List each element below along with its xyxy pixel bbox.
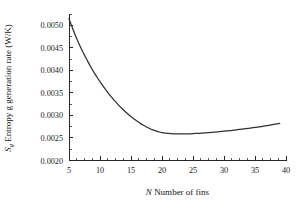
y-tick-label: 0.0050 xyxy=(40,21,63,30)
svg-text:Sg Entropy g generation rate (: Sg Entropy g generation rate (W/K) xyxy=(3,24,14,151)
chart-background xyxy=(0,0,301,206)
x-tick-label: 15 xyxy=(127,166,135,175)
y-tick-label: 0.0035 xyxy=(40,89,63,98)
y-tick-label: 0.0045 xyxy=(40,44,63,53)
x-tick-label: 20 xyxy=(158,166,166,175)
svg-text:N Number of fins: N Number of fins xyxy=(145,187,210,197)
y-tick-label: 0.0030 xyxy=(40,111,63,120)
x-tick-label: 10 xyxy=(96,166,104,175)
chart-canvas: 0.00200.00250.00300.00350.00400.00450.00… xyxy=(0,0,301,206)
x-tick-label: 5 xyxy=(67,166,71,175)
y-axis-title: Sg Entropy g generation rate (W/K) xyxy=(3,24,14,151)
y-tick-label: 0.0020 xyxy=(40,157,63,166)
y-tick-label: 0.0025 xyxy=(40,134,63,143)
x-tick-label: 30 xyxy=(220,166,228,175)
x-tick-label: 40 xyxy=(282,166,290,175)
x-tick-label: 35 xyxy=(251,166,259,175)
x-tick-label: 25 xyxy=(189,166,197,175)
y-tick-label: 0.0040 xyxy=(40,66,63,75)
entropy-generation-chart: 0.00200.00250.00300.00350.00400.00450.00… xyxy=(0,0,301,206)
x-axis-title: N Number of fins xyxy=(145,187,210,197)
